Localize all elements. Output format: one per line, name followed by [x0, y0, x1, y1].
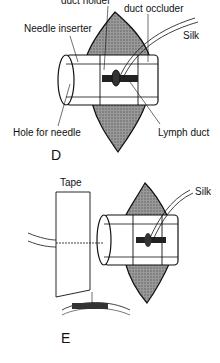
label-silk-d: Silk	[183, 30, 199, 41]
panel-d-letter: D	[51, 148, 61, 162]
label-needle-inserter: Needle inserter	[24, 23, 92, 34]
label-lymph-duct: Lymph duct	[158, 127, 209, 138]
panel-e-drawing	[28, 183, 193, 315]
label-hole-for-needle: Hole for needle	[13, 127, 81, 138]
label-duct-occluder: duct occluder	[124, 3, 183, 14]
panel-e-letter: E	[61, 331, 70, 345]
label-silk-e: Silk	[195, 186, 211, 197]
label-duct-holder: duct holder	[61, 0, 110, 6]
label-tape: Tape	[60, 177, 82, 188]
diagram-illustration	[0, 0, 220, 363]
